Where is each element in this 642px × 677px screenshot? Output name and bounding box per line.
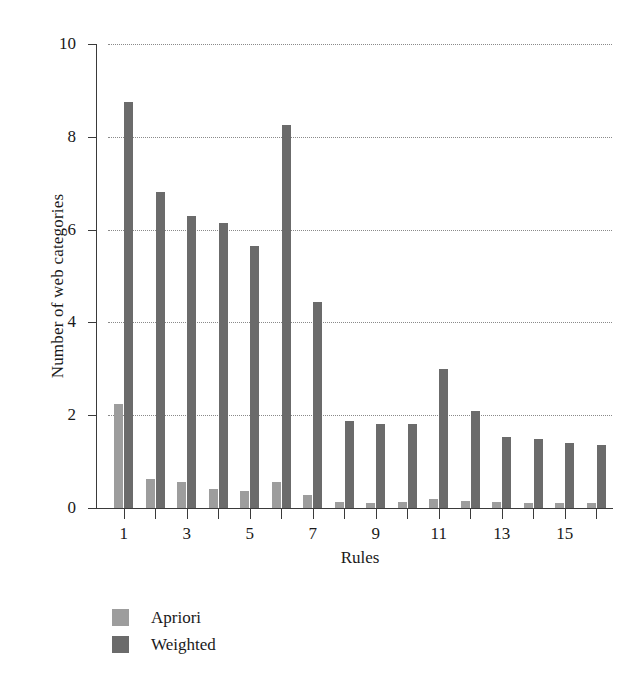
x-tick-label: 9 xyxy=(372,524,381,544)
x-tick-mark xyxy=(281,509,282,519)
y-axis-title: Number of web categories xyxy=(48,76,68,496)
gridline xyxy=(108,44,612,45)
x-axis-line xyxy=(96,508,613,509)
y-tick-mark xyxy=(88,508,96,509)
x-tick-mark xyxy=(218,509,219,519)
x-tick-mark xyxy=(407,509,408,519)
bar-apriori xyxy=(303,495,312,508)
bar-weighted xyxy=(124,102,133,508)
x-tick-label: 5 xyxy=(246,524,255,544)
bar-apriori xyxy=(461,501,470,508)
x-tick-mark xyxy=(124,509,125,519)
y-tick-label: 2 xyxy=(68,405,77,425)
x-tick-label: 3 xyxy=(183,524,192,544)
y-tick-label: 8 xyxy=(68,127,77,147)
y-tick-label: 6 xyxy=(68,220,77,240)
x-tick-label: 13 xyxy=(493,524,510,544)
x-axis-title: Rules xyxy=(108,548,612,568)
bar-apriori xyxy=(146,479,155,508)
legend-item: Weighted xyxy=(112,631,216,658)
legend-item: Apriori xyxy=(112,604,216,631)
x-tick-mark xyxy=(502,509,503,519)
bar-weighted xyxy=(156,192,165,508)
x-tick-mark xyxy=(344,509,345,519)
x-tick-mark xyxy=(155,509,156,519)
x-tick-mark xyxy=(250,509,251,519)
legend-label: Weighted xyxy=(151,635,216,655)
y-tick-label: 4 xyxy=(68,312,77,332)
bar-apriori xyxy=(177,482,186,508)
x-tick-mark xyxy=(596,509,597,519)
x-tick-label: 7 xyxy=(309,524,318,544)
bar-weighted xyxy=(345,421,354,508)
bar-weighted xyxy=(534,439,543,508)
bar-weighted xyxy=(313,302,322,508)
y-tick-mark xyxy=(88,137,96,138)
x-tick-label: 1 xyxy=(120,524,129,544)
bar-weighted xyxy=(282,125,291,508)
x-tick-mark xyxy=(533,509,534,519)
bar-weighted xyxy=(502,437,511,508)
x-tick-mark xyxy=(470,509,471,519)
gridline xyxy=(108,415,612,416)
bar-weighted xyxy=(219,223,228,508)
y-tick-mark xyxy=(88,230,96,231)
x-tick-mark xyxy=(439,509,440,519)
bar-apriori xyxy=(240,491,249,508)
legend-label: Apriori xyxy=(151,608,201,628)
bar-weighted xyxy=(565,443,574,508)
bar-weighted xyxy=(471,411,480,508)
bar-weighted xyxy=(597,445,606,508)
plot-area: 0246810 13579111315 xyxy=(108,44,612,508)
bar-apriori xyxy=(429,499,438,508)
bar-chart-figure: Number of web categories 0246810 1357911… xyxy=(0,0,642,677)
x-tick-mark xyxy=(565,509,566,519)
bar-weighted xyxy=(250,246,259,508)
bar-weighted xyxy=(439,369,448,508)
y-tick-mark xyxy=(88,44,96,45)
bar-weighted xyxy=(408,424,417,508)
bar-weighted xyxy=(187,216,196,508)
gridline xyxy=(108,230,612,231)
y-tick-mark xyxy=(88,322,96,323)
y-tick-label: 0 xyxy=(68,498,77,518)
x-tick-mark xyxy=(187,509,188,519)
gridline xyxy=(108,137,612,138)
gridline xyxy=(108,322,612,323)
legend-swatch xyxy=(112,609,129,626)
x-tick-mark xyxy=(313,509,314,519)
bar-apriori xyxy=(209,489,218,508)
x-tick-label: 15 xyxy=(556,524,573,544)
bar-apriori xyxy=(114,404,123,508)
x-tick-label: 11 xyxy=(431,524,447,544)
bar-weighted xyxy=(376,424,385,508)
y-tick-label: 10 xyxy=(59,34,76,54)
bar-apriori xyxy=(272,482,281,508)
x-tick-mark xyxy=(376,509,377,519)
y-axis-line xyxy=(96,44,97,509)
legend-swatch xyxy=(112,636,129,653)
y-tick-mark xyxy=(88,415,96,416)
chart-legend: AprioriWeighted xyxy=(112,604,216,658)
